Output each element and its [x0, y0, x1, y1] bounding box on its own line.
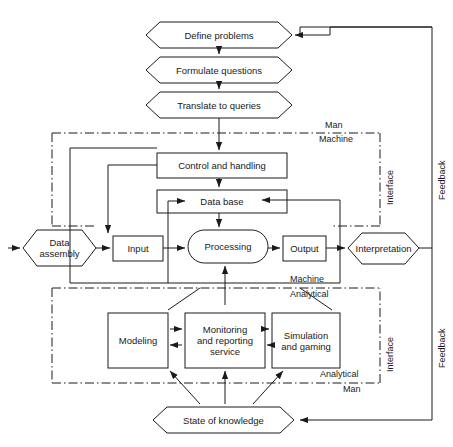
vertical-label-feedback-bottom: Feedback — [437, 328, 447, 368]
node-shape-define-problems — [146, 22, 292, 48]
edge-state-to-simulation — [253, 371, 283, 404]
node-shape-output — [283, 236, 326, 261]
edge-control-to-input — [108, 165, 157, 233]
boundary-label-machine-top: Machine — [319, 134, 353, 145]
boundary-label-man-top: Man — [325, 120, 343, 131]
node-shape-data-assembly — [23, 230, 96, 266]
vertical-label-interface-top: Interface — [385, 170, 395, 205]
node-shape-interpretation — [348, 233, 419, 264]
diagram-canvas: Define problems Formulate questions Tran… — [0, 0, 453, 447]
node-shape-monitoring — [185, 313, 265, 368]
edge-processing-to-modeling — [168, 288, 200, 310]
boundary-interface-upper — [332, 133, 380, 226]
boundary-label-analytical-mid: Analytical — [290, 289, 329, 300]
node-shape-modeling — [108, 313, 168, 368]
diagram-svg — [0, 0, 453, 447]
node-shape-simulation — [272, 313, 340, 368]
vertical-label-feedback-top: Feedback — [437, 160, 447, 200]
node-shape-input — [113, 236, 163, 261]
node-shape-processing — [188, 230, 268, 263]
node-shape-control — [157, 153, 287, 178]
boundary-label-man-bottom: Man — [343, 384, 361, 395]
boundary-man-machine — [52, 133, 380, 226]
node-shape-translate — [146, 92, 292, 118]
node-shape-formulate — [146, 57, 292, 83]
feedback-bus-top — [300, 27, 432, 35]
edge-state-to-modeling — [170, 371, 200, 404]
boundary-label-analytical-bottom: Analytical — [320, 369, 359, 380]
node-shape-state-knowledge — [153, 407, 294, 433]
vertical-label-interface-bottom: Interface — [385, 337, 395, 372]
feedback-bus-top-join — [330, 27, 432, 35]
boundary-label-machine-mid: Machine — [290, 274, 324, 285]
